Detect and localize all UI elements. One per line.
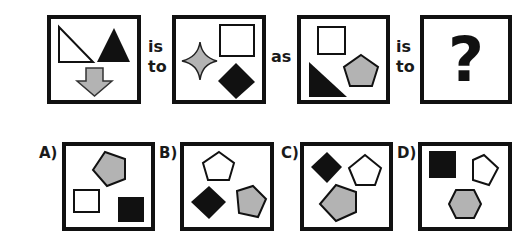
gray-pentagon-icon [320,185,356,221]
connector-is-2: is [396,38,411,56]
option-c-label: C) [281,145,299,161]
connector-to-1: to [148,58,167,76]
connector-as: as [271,48,291,66]
white-square-icon [318,27,345,54]
black-square-icon [118,197,144,222]
white-pentagon-icon [349,155,381,185]
white-square-icon [220,25,254,56]
option-d-label: D) [397,145,416,161]
panel-2-shapes [176,19,262,100]
white-square-icon [74,190,99,212]
panel-1-shapes [51,19,137,100]
analogy-panel-1 [47,15,141,104]
gray-pentagon-icon [344,55,378,86]
black-triangle-icon [97,28,130,62]
gray-four-point-star-icon [182,42,217,80]
black-diamond-icon [311,152,342,183]
gray-pentagon-icon [237,186,266,217]
option-d-shapes [422,146,508,227]
option-a[interactable] [62,142,155,231]
gray-pentagon-icon [93,152,125,186]
white-pentagon-icon [473,155,498,185]
gray-down-arrow-icon [77,68,112,96]
white-pentagon-icon [203,152,234,180]
panel-3-shapes [301,19,386,100]
connector-to-2: to [396,58,415,76]
black-right-triangle-icon [309,62,347,97]
analogy-panel-unknown: ? [420,15,512,104]
connector-is-1: is [148,38,163,56]
option-d[interactable] [418,142,512,231]
option-b[interactable] [180,142,274,231]
option-c[interactable] [300,142,393,231]
question-mark: ? [424,19,508,100]
black-diamond-icon [191,186,226,219]
option-a-label: A) [39,145,57,161]
black-diamond-icon [218,63,255,99]
option-a-shapes [66,146,151,227]
option-c-shapes [304,146,389,227]
option-b-shapes [184,146,270,227]
option-b-label: B) [159,145,177,161]
black-square-icon [429,151,456,178]
gray-hexagon-icon [449,190,481,218]
analogy-panel-3 [297,15,390,104]
analogy-panel-2 [172,15,266,104]
white-right-triangle-icon [59,27,93,62]
